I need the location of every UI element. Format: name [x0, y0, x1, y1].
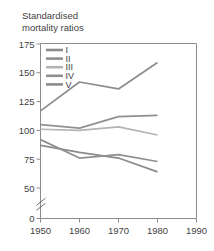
series-line-ii — [41, 140, 158, 162]
plot-frame — [41, 44, 197, 219]
y-axis-tick-label: 75 — [24, 154, 35, 165]
chart-figure: Standardised mortality ratios 0507510012… — [0, 0, 214, 251]
x-axis-tick-label: 1980 — [147, 225, 168, 236]
legend-label-v: V — [66, 80, 72, 90]
y-axis-tick-label: 100 — [19, 125, 35, 136]
series-line-v — [41, 62, 158, 110]
y-axis-tick-label: 0 — [29, 213, 34, 224]
line-chart-plot: 0507510012515017519501960197019801990III… — [0, 0, 214, 251]
x-axis-tick-label: 1970 — [108, 225, 129, 236]
x-axis-tick-label: 1990 — [186, 225, 207, 236]
x-axis-tick-label: 1950 — [30, 225, 51, 236]
y-axis-tick-label: 50 — [24, 183, 35, 194]
series-line-iv — [41, 115, 158, 128]
series-line-iii — [41, 127, 158, 135]
x-axis-tick-label: 1960 — [69, 225, 90, 236]
y-axis-tick-label: 125 — [19, 96, 35, 107]
y-axis-tick-label: 150 — [19, 67, 35, 78]
y-axis-tick-label: 175 — [19, 39, 35, 50]
